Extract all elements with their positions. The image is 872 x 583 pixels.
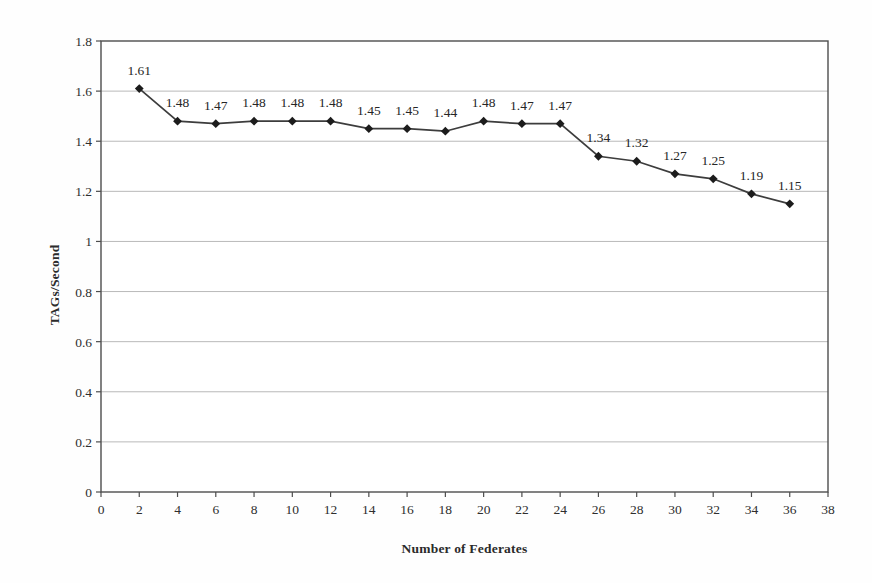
x-axis-tick-label: 36 bbox=[783, 502, 797, 517]
y-axis-tick-label: 1.8 bbox=[75, 34, 92, 49]
data-point-label: 1.15 bbox=[778, 178, 802, 193]
data-point-label: 1.47 bbox=[510, 98, 534, 113]
x-axis-tick-label: 14 bbox=[362, 502, 376, 517]
data-point-label: 1.48 bbox=[281, 95, 305, 110]
x-axis-tick-label: 26 bbox=[592, 502, 606, 517]
x-axis-tick-label: 20 bbox=[477, 502, 491, 517]
y-axis-tick-label: 0 bbox=[85, 485, 92, 500]
data-point-label: 1.44 bbox=[434, 105, 458, 120]
line-chart-plot: 00.20.40.60.811.21.41.61.802468101214161… bbox=[0, 0, 872, 583]
x-axis-tick-label: 28 bbox=[630, 502, 644, 517]
data-point-label: 1.34 bbox=[587, 130, 611, 145]
x-axis-tick-label: 22 bbox=[515, 502, 529, 517]
x-axis-tick-label: 32 bbox=[706, 502, 720, 517]
x-axis-tick-label: 10 bbox=[286, 502, 300, 517]
data-point-label: 1.48 bbox=[166, 95, 190, 110]
x-axis-tick-label: 18 bbox=[439, 502, 453, 517]
data-point-label: 1.48 bbox=[319, 95, 343, 110]
y-axis-tick-label: 0.2 bbox=[75, 435, 92, 450]
y-axis-tick-label: 0.8 bbox=[75, 285, 92, 300]
x-axis-title: Number of Federates bbox=[101, 541, 828, 557]
data-point-label: 1.61 bbox=[127, 63, 151, 78]
y-axis-tick-label: 0.6 bbox=[75, 335, 92, 350]
x-axis-tick-label: 6 bbox=[212, 502, 219, 517]
x-axis-tick-label: 2 bbox=[136, 502, 143, 517]
y-axis-tick-label: 0.4 bbox=[75, 385, 92, 400]
data-point-label: 1.45 bbox=[395, 103, 419, 118]
data-point-label: 1.47 bbox=[204, 98, 228, 113]
x-axis-tick-label: 0 bbox=[98, 502, 105, 517]
y-axis-tick-label: 1.6 bbox=[75, 84, 92, 99]
x-axis-tick-label: 4 bbox=[174, 502, 181, 517]
x-axis-tick-label: 8 bbox=[251, 502, 258, 517]
x-axis-tick-label: 30 bbox=[668, 502, 682, 517]
data-point-label: 1.45 bbox=[357, 103, 381, 118]
data-point-label: 1.47 bbox=[548, 98, 572, 113]
y-axis-tick-label: 1.4 bbox=[75, 134, 92, 149]
data-point-label: 1.25 bbox=[701, 153, 725, 168]
data-point-label: 1.19 bbox=[740, 168, 764, 183]
y-axis-tick-label: 1.2 bbox=[75, 184, 92, 199]
scanned-line-chart-page: TAGs/Second 00.20.40.60.811.21.41.61.802… bbox=[0, 0, 872, 583]
data-point-label: 1.27 bbox=[663, 148, 687, 163]
x-axis-tick-label: 12 bbox=[324, 502, 338, 517]
x-axis-tick-label: 34 bbox=[745, 502, 759, 517]
x-axis-tick-label: 24 bbox=[553, 502, 567, 517]
x-axis-tick-label: 16 bbox=[400, 502, 414, 517]
data-point-label: 1.48 bbox=[472, 95, 496, 110]
x-axis-tick-label: 38 bbox=[821, 502, 835, 517]
data-point-label: 1.32 bbox=[625, 135, 649, 150]
data-point-label: 1.48 bbox=[242, 95, 266, 110]
y-axis-tick-label: 1 bbox=[85, 234, 92, 249]
